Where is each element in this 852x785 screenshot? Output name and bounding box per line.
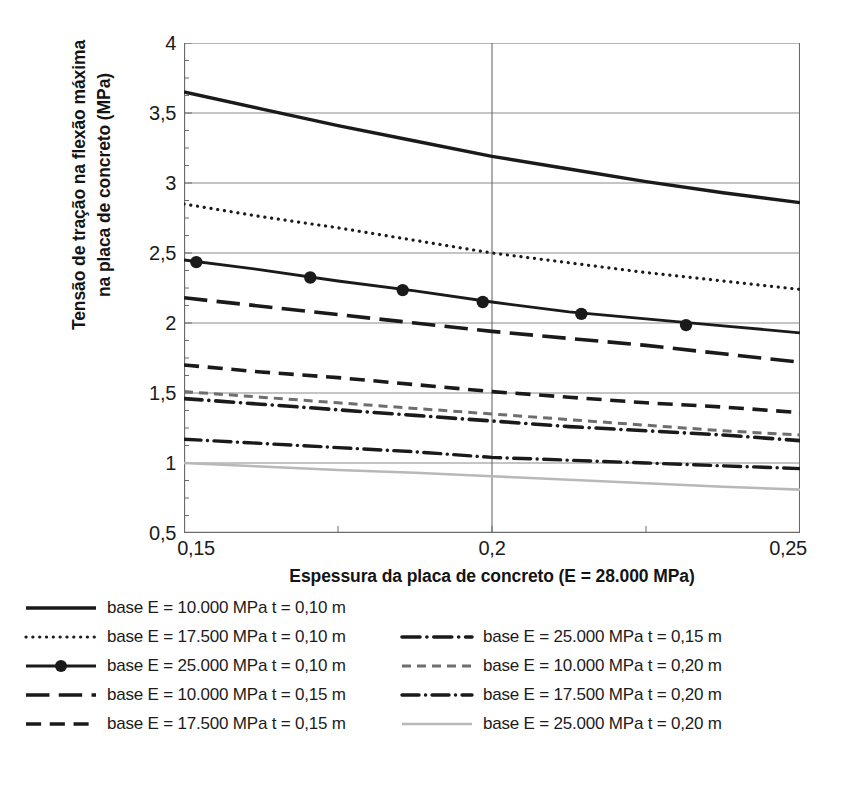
legend-item[interactable]: base E = 17.500 MPa t = 0,10 m xyxy=(24,623,346,651)
legend-item[interactable]: base E = 10.000 MPa t = 0,15 m xyxy=(24,681,346,709)
y-tick-label: 3,5 xyxy=(130,102,176,125)
legend-item[interactable]: base E = 10.000 MPa t = 0,20 m xyxy=(400,652,722,680)
chart-plot-svg xyxy=(184,43,800,533)
legend-item[interactable]: base E = 10.000 MPa t = 0,10 m xyxy=(24,594,346,622)
y-tick-label: 1 xyxy=(130,452,176,475)
y-axis-title-line2: na placa de concreto (MPa) xyxy=(92,0,117,395)
y-axis-title-line1: Tensão de tração na flexão máxima xyxy=(69,40,89,330)
legend-line-style-icon xyxy=(24,714,98,734)
x-axis-tick-labels: 0,150,20,25 xyxy=(184,537,800,567)
y-tick-label: 4 xyxy=(130,32,176,55)
legend-line-style-icon xyxy=(24,598,98,618)
legend-line-style-icon xyxy=(400,714,474,734)
legend-item[interactable]: base E = 17.500 MPa t = 0,15 m xyxy=(24,710,346,738)
legend-item-label: base E = 10.000 MPa t = 0,10 m xyxy=(107,598,346,618)
y-tick-label: 2 xyxy=(130,312,176,335)
series-marker xyxy=(190,256,202,268)
x-tick-label: 0,25 xyxy=(769,537,807,560)
legend-line-style-icon xyxy=(400,656,474,676)
y-tick-label: 3 xyxy=(130,172,176,195)
legend-item-label: base E = 25.000 MPa t = 0,15 m xyxy=(483,627,722,647)
series-marker xyxy=(680,319,692,331)
legend-item[interactable]: base E = 25.000 MPa t = 0,10 m xyxy=(24,652,346,680)
legend-item[interactable]: base E = 17.500 MPa t = 0,20 m xyxy=(400,681,722,709)
legend-item[interactable]: base E = 25.000 MPa t = 0,20 m xyxy=(400,710,722,738)
legend-line-style-icon xyxy=(400,627,474,647)
legend-item-label: base E = 10.000 MPa t = 0,15 m xyxy=(107,685,346,705)
legend-line-style-icon xyxy=(24,656,98,676)
x-axis-title: Espessura da placa de concreto (E = 28.0… xyxy=(184,566,800,587)
x-tick-label: 0,2 xyxy=(479,537,506,560)
legend-item-label: base E = 17.500 MPa t = 0,15 m xyxy=(107,714,346,734)
legend-line-style-icon xyxy=(24,627,98,647)
series-marker xyxy=(477,296,489,308)
series-marker xyxy=(575,308,587,320)
legend-item-label: base E = 25.000 MPa t = 0,20 m xyxy=(483,714,722,734)
y-tick-label: 0,5 xyxy=(130,522,176,545)
legend-item[interactable]: base E = 25.000 MPa t = 0,15 m xyxy=(400,623,722,651)
legend-item-label: base E = 17.500 MPa t = 0,10 m xyxy=(107,627,346,647)
chart-legend: base E = 10.000 MPa t = 0,10 mbase E = 1… xyxy=(24,594,828,754)
legend-swatch-marker xyxy=(55,660,67,672)
legend-line-style-icon xyxy=(24,685,98,705)
y-axis-tick-labels: 0,511,522,533,54 xyxy=(118,43,176,533)
y-axis-title: Tensão de tração na flexão máxima na pla… xyxy=(67,0,117,395)
chart-figure: Tensão de tração na flexão máxima na pla… xyxy=(0,0,852,785)
y-tick-label: 1,5 xyxy=(130,382,176,405)
series-marker xyxy=(304,271,316,283)
x-tick-label: 0,15 xyxy=(177,537,215,560)
series-marker xyxy=(396,284,408,296)
plot-area xyxy=(184,43,800,533)
y-tick-label: 2,5 xyxy=(130,242,176,265)
legend-item-label: base E = 10.000 MPa t = 0,20 m xyxy=(483,656,722,676)
legend-item-label: base E = 17.500 MPa t = 0,20 m xyxy=(483,685,722,705)
legend-line-style-icon xyxy=(400,685,474,705)
legend-item-label: base E = 25.000 MPa t = 0,10 m xyxy=(107,656,346,676)
